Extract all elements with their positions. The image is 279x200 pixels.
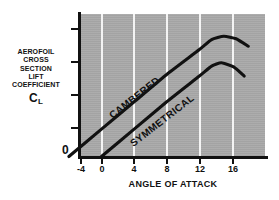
aerofoil-lift-coefficient-chart: AEROFOIL CROSS SECTION LIFT COEFFICIENT …	[0, 0, 279, 200]
curve-cambered	[69, 36, 248, 156]
